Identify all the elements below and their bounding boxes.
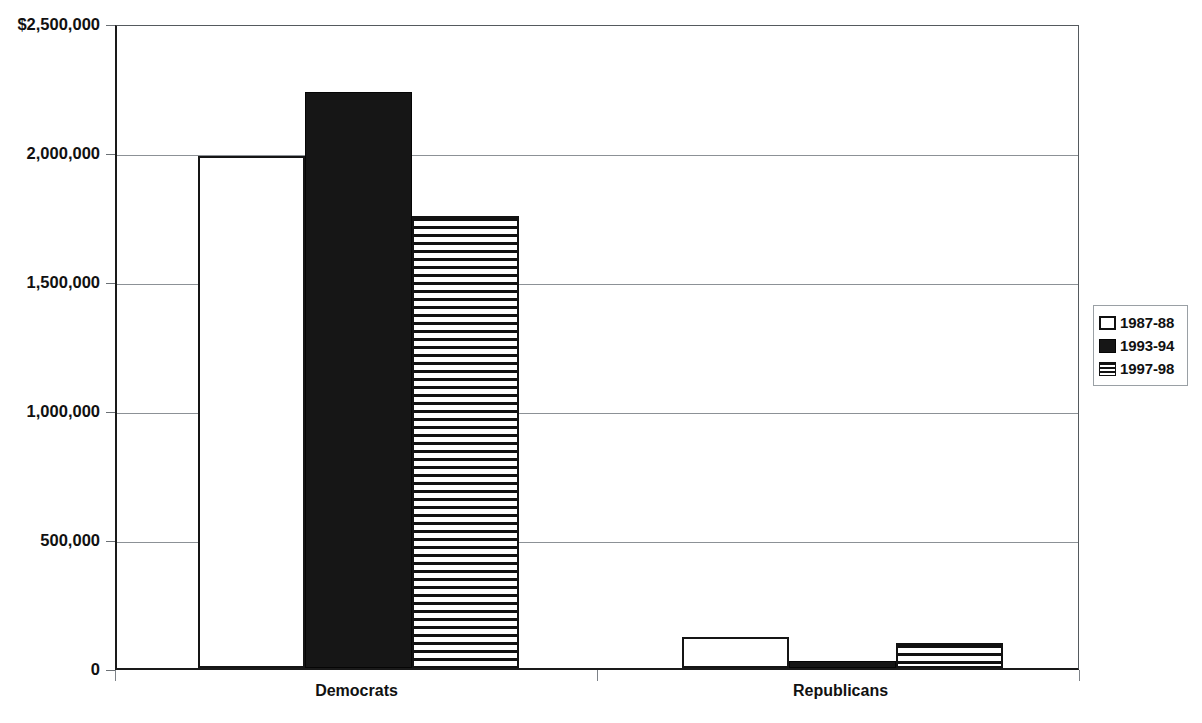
y-tick-label: 2,000,000	[0, 144, 100, 163]
bar-democrats-1997-98	[412, 216, 519, 668]
y-tick-label: $2,500,000	[0, 15, 100, 34]
bar-republicans-1997-98	[896, 643, 1003, 668]
legend-item-label: 1987-88	[1120, 314, 1174, 331]
x-axis-tick	[597, 670, 598, 681]
y-tick-mark	[106, 670, 115, 671]
x-axis-label-republicans: Republicans	[793, 682, 888, 700]
bar-republicans-1993-94	[789, 661, 896, 668]
x-axis-tick	[115, 670, 116, 681]
y-tick-label: 1,000,000	[0, 402, 100, 421]
legend-item-label: 1997-98	[1120, 360, 1174, 377]
y-tick-label: 0	[0, 660, 100, 679]
y-tick-mark	[106, 154, 115, 155]
x-axis-tick	[1079, 670, 1080, 681]
y-tick-label: 1,500,000	[0, 273, 100, 292]
bar-republicans-1987-88	[682, 637, 789, 668]
legend-swatch-icon	[1099, 362, 1116, 376]
bar-democrats-1987-88	[198, 156, 305, 668]
plot-area	[115, 25, 1079, 670]
legend-item: 1997-98	[1099, 357, 1183, 380]
legend-item: 1993-94	[1099, 334, 1183, 357]
legend-item-label: 1993-94	[1120, 337, 1174, 354]
bar-chart: $2,500,0002,000,0001,500,0001,000,000500…	[0, 0, 1202, 723]
y-tick-mark	[106, 25, 115, 26]
y-tick-mark	[106, 412, 115, 413]
y-tick-mark	[106, 541, 115, 542]
legend: 1987-881993-941997-98	[1093, 305, 1188, 386]
bar-democrats-1993-94	[305, 92, 412, 668]
legend-item: 1987-88	[1099, 311, 1183, 334]
x-axis-label-democrats: Democrats	[315, 682, 398, 700]
y-tick-mark	[106, 283, 115, 284]
legend-swatch-icon	[1099, 339, 1116, 353]
y-tick-label: 500,000	[0, 531, 100, 550]
legend-swatch-icon	[1099, 316, 1116, 330]
